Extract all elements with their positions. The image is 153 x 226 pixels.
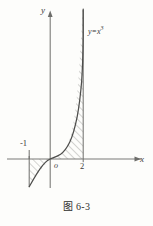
figure-container: y x o 2 -1 y=x3 图 6-3 xyxy=(0,0,153,226)
y-axis xyxy=(48,11,53,189)
x-axis-label: x xyxy=(140,155,144,164)
curve-equation-exponent: 3 xyxy=(101,25,104,31)
y-axis-label: y xyxy=(41,6,45,15)
function-plot xyxy=(0,0,153,226)
figure-caption: 图 6-3 xyxy=(0,198,153,213)
shaded-region-positive xyxy=(48,7,86,161)
x-tick-label-neg1: -1 xyxy=(20,139,27,148)
curve-equation-base: y=x xyxy=(88,27,101,36)
curve-equation-label: y=x3 xyxy=(88,25,104,36)
x-tick-label-2: 2 xyxy=(80,162,84,171)
origin-label: o xyxy=(54,162,58,170)
